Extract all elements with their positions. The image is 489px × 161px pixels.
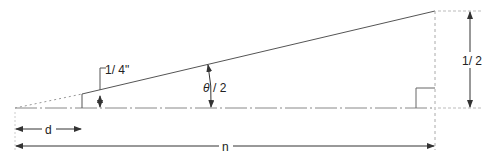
n-dimension-label: n [222,140,229,154]
hypotenuse-line [82,11,435,94]
hypotenuse-dotted-extension [15,94,82,108]
quarter-inch-label: 1/ 4" [105,63,129,77]
right-angle-marker [416,88,435,108]
half-angle-theta-label: θ [203,81,210,95]
half-dimension-label: 1/ 2 [462,54,482,68]
half-angle-rest-label: / 2 [213,81,227,95]
wedge-diagram: 1/ 4" θ / 2 1/ 2 d n [0,0,489,161]
d-dimension-label: d [45,123,52,137]
